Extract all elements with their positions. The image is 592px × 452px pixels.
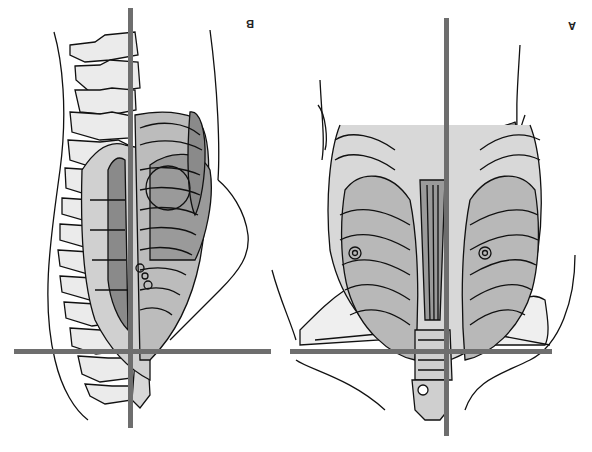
crosshair-vertical-a (444, 18, 449, 436)
panel-label-a: A (568, 20, 576, 32)
panel-b (48, 30, 296, 420)
crosshair-vertical-b (128, 8, 133, 428)
crosshair-horizontal-b (14, 349, 271, 354)
figure: B A (0, 0, 592, 452)
panel-a (296, 45, 575, 420)
crosshair-horizontal-a (290, 349, 552, 354)
anatomical-illustration (0, 0, 592, 452)
panel-label-b: B (246, 18, 254, 30)
